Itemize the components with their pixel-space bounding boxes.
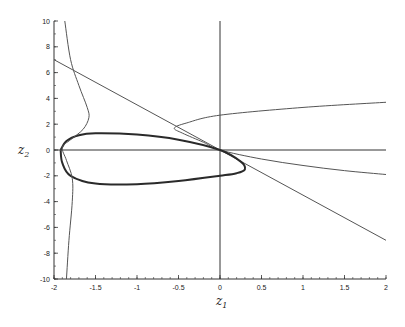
x-tick-label: 2 xyxy=(384,284,388,291)
x-tick-label: 0 xyxy=(218,284,222,291)
x-tick-label: 0.5 xyxy=(257,284,267,291)
y-axis-label: z2 xyxy=(17,143,29,159)
chart: -2-1.5-1-0.500.511.52-10-8-6-4-20246810 … xyxy=(0,0,405,327)
y-tick-label: 2 xyxy=(46,121,50,128)
y-tick-label: 8 xyxy=(46,43,50,50)
x-tick-label: -1 xyxy=(134,284,140,291)
x-tick-label: 1 xyxy=(301,284,305,291)
y-tick-label: 6 xyxy=(46,69,50,76)
y-tick-label: -10 xyxy=(40,276,50,283)
series-right-opening-branch xyxy=(174,102,386,174)
axis-ticks: -2-1.5-1-0.500.511.52-10-8-6-4-20246810 xyxy=(40,18,388,292)
y-tick-label: -8 xyxy=(44,250,50,257)
x-tick-label: 1.5 xyxy=(340,284,350,291)
y-tick-label: -2 xyxy=(44,172,50,179)
y-tick-label: -4 xyxy=(44,198,50,205)
x-tick-label: -2 xyxy=(51,284,57,291)
x-tick-label: -1.5 xyxy=(89,284,101,291)
series-closed-loop xyxy=(61,133,245,184)
y-tick-label: 0 xyxy=(46,147,50,154)
x-tick-label: -0.5 xyxy=(172,284,184,291)
y-tick-label: 4 xyxy=(46,95,50,102)
y-tick-label: 10 xyxy=(42,18,50,25)
x-axis-label: z1 xyxy=(215,294,227,310)
y-tick-label: -6 xyxy=(44,224,50,231)
